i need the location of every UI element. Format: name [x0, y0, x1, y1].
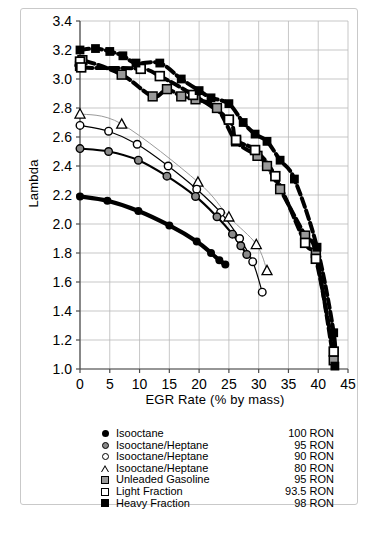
legend-ron-value: 98 RON — [294, 498, 334, 510]
series-line — [80, 196, 225, 264]
legend-label: Isooctane100 RON — [116, 428, 334, 440]
series-lines — [76, 49, 335, 367]
legend-fuel-name: Light Fraction — [116, 486, 183, 498]
filled-square-icon — [94, 499, 116, 507]
y-tick-label: 1.2 — [53, 332, 73, 348]
marker-glyph — [101, 476, 109, 484]
series-points — [76, 192, 229, 268]
legend-spacer — [208, 451, 294, 463]
x-tick-label: 45 — [340, 376, 356, 392]
x-tick-label: 35 — [281, 376, 297, 392]
x-tick-label: 20 — [191, 376, 207, 392]
marker-glyph — [102, 442, 109, 449]
legend-spacer — [183, 486, 285, 498]
legend-item: Isooctane100 RON — [94, 428, 334, 440]
x-tick-label: 10 — [132, 376, 148, 392]
y-tick-label: 2.0 — [53, 216, 73, 232]
y-tick-label: 1.8 — [53, 245, 73, 261]
gray-circle-icon — [94, 442, 116, 449]
open-square-icon — [94, 488, 116, 496]
x-tick-label: 15 — [162, 376, 178, 392]
y-tick-label: 1.0 — [53, 361, 73, 377]
x-tick-label: 0 — [76, 376, 84, 392]
y-tick-label: 1.6 — [53, 274, 73, 290]
legend-spacer — [208, 440, 294, 452]
y-tick-label: 3.4 — [53, 13, 73, 29]
marker-glyph — [102, 453, 109, 460]
legend-item: Light Fraction93.5 RON — [94, 486, 334, 498]
legend-spacer — [164, 428, 288, 440]
legend-label: Light Fraction93.5 RON — [116, 486, 334, 498]
marker-glyph — [102, 430, 109, 437]
chart-legend: Isooctane100 RONIsooctane/Heptane95 RONI… — [94, 428, 334, 509]
y-tick-label: 3.0 — [53, 71, 73, 87]
marker-glyph — [101, 499, 109, 507]
marker-glyph — [101, 488, 109, 496]
y-axis-title: Lambda — [26, 139, 41, 229]
open-triangle-icon — [94, 465, 116, 472]
series-line — [76, 62, 333, 352]
filled-circle-icon — [94, 430, 116, 437]
series-points — [76, 122, 266, 296]
legend-fuel-name: Isooctane — [116, 428, 164, 440]
legend-item: Heavy Fraction98 RON — [94, 498, 334, 510]
y-tick-label: 2.6 — [53, 129, 73, 145]
legend-spacer — [208, 463, 294, 475]
y-tick-label: 2.8 — [53, 100, 73, 116]
legend-ron-value: 100 RON — [288, 428, 334, 440]
y-tick-label: 1.4 — [53, 303, 73, 319]
gray-square-icon — [94, 476, 116, 484]
open-circle-icon — [94, 453, 116, 460]
legend-spacer — [190, 498, 294, 510]
x-tick-label: 25 — [221, 376, 237, 392]
x-tick-label: 40 — [310, 376, 326, 392]
marker-glyph — [101, 465, 109, 472]
y-tick-label: 3.2 — [53, 42, 73, 58]
y-tick-label: 2.4 — [53, 158, 73, 174]
x-axis-title: EGR Rate (% by mass) — [80, 392, 350, 407]
y-tick-label: 2.2 — [53, 187, 73, 203]
legend-label: Heavy Fraction98 RON — [116, 498, 334, 510]
legend-spacer — [210, 474, 295, 486]
x-tick-label: 5 — [106, 376, 114, 392]
x-tick-label: 30 — [251, 376, 267, 392]
legend-fuel-name: Heavy Fraction — [116, 498, 190, 510]
legend-ron-value: 93.5 RON — [285, 486, 334, 498]
figure-container: 1.01.21.41.61.82.02.22.42.62.83.03.23.40… — [0, 0, 372, 535]
